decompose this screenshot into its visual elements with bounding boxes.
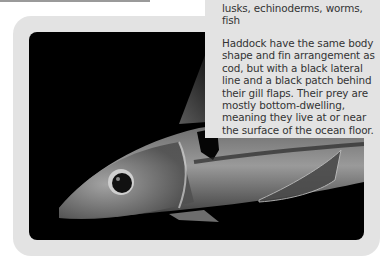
info-textbox: lusks, echinoderms, worms, fish Haddock … (205, 0, 380, 138)
top-divider (0, 0, 150, 2)
description-text: Haddock have the same body shape and fin… (222, 37, 382, 136)
prey-list-text: lusks, echinoderms, worms, fish (222, 2, 382, 27)
